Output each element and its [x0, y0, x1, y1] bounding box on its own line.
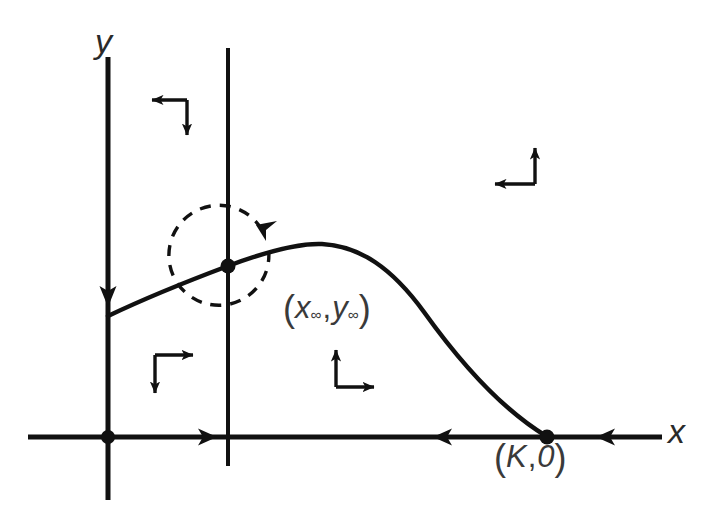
equilibrium-y-subscript: ∞	[348, 306, 359, 323]
capacity-zero-var: 0	[537, 439, 554, 474]
equilibrium-x-var: x	[295, 290, 311, 325]
phase-plane-canvas	[0, 0, 708, 521]
equilibrium-point	[221, 259, 236, 274]
direction-cross-upper-right	[495, 148, 535, 184]
equilibrium-point-label: (x∞,y∞)	[283, 291, 371, 327]
y-axis-label: y	[95, 24, 112, 58]
equilibrium-open-paren: (	[283, 288, 295, 329]
equilibrium-x-subscript: ∞	[311, 306, 322, 323]
capacity-open-paren: (	[494, 437, 506, 478]
capacity-close-paren: )	[555, 437, 567, 478]
phase-plane-figure: y x (x∞,y∞) (K,0)	[0, 0, 708, 521]
carrying-capacity-label: (K,0)	[494, 440, 567, 476]
origin-point	[101, 430, 115, 444]
capacity-k-var: K	[506, 439, 527, 474]
direction-cross-upper-left	[152, 100, 187, 135]
fixed-points	[101, 259, 555, 445]
equilibrium-comma: ,	[322, 290, 333, 325]
direction-cross-lower-middle	[336, 350, 374, 387]
equilibrium-y-var: y	[332, 290, 348, 325]
equilibrium-close-paren: )	[359, 288, 371, 329]
capacity-comma: ,	[527, 439, 538, 474]
direction-cross-lower-left	[155, 355, 193, 393]
x-axis-label: x	[668, 414, 685, 448]
